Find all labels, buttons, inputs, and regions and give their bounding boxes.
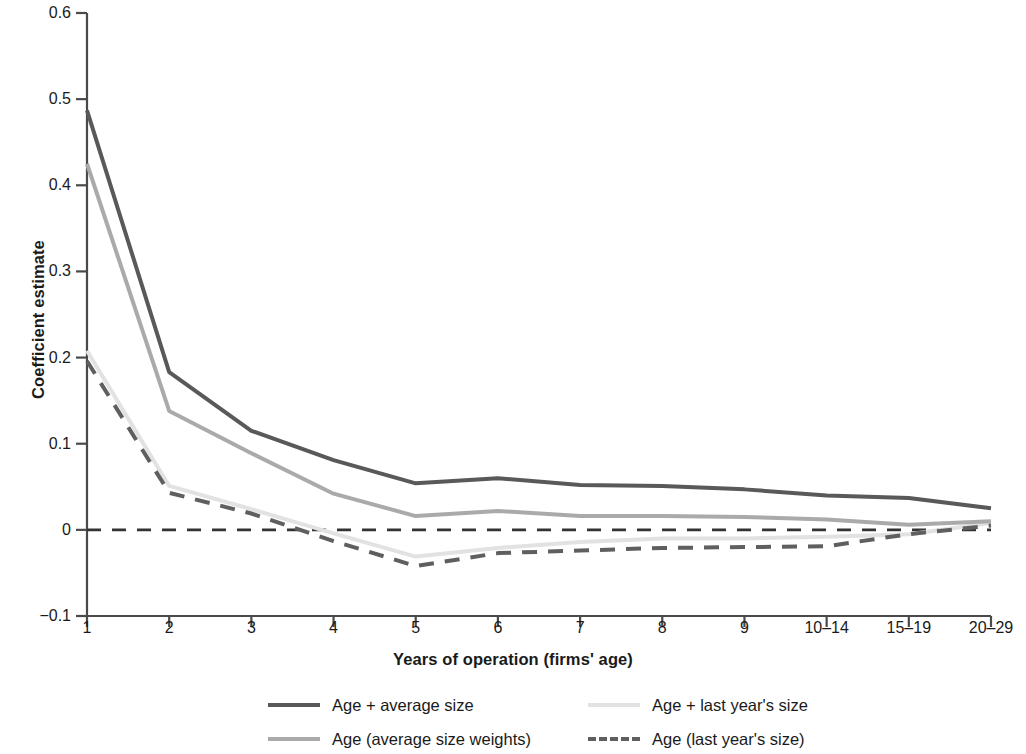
legend-item-age-last-years-size-dashed: Age (last year's size) [588, 726, 805, 752]
legend-swatch-solid-gray [268, 737, 320, 741]
y-tick-label: 0.2 [15, 350, 71, 366]
legend-item-age-last-years-size-solid: Age + last year's size [588, 692, 808, 718]
legend-label: Age + last year's size [652, 696, 808, 715]
legend-item-age-average-size-weights: Age (average size weights) [268, 726, 531, 752]
series-line-0 [87, 110, 991, 508]
x-tick-label: 20–29 [941, 620, 1026, 636]
line-chart-plot [0, 0, 1026, 690]
chart-figure: Coefficient estimate Years of operation … [0, 0, 1026, 754]
y-tick-label: 0.6 [15, 5, 71, 21]
y-tick-label: 0.4 [15, 177, 71, 193]
x-axis-label: Years of operation (firms' age) [0, 650, 1026, 669]
y-tick-label: 0.3 [15, 263, 71, 279]
y-tick-label: 0.5 [15, 91, 71, 107]
series-line-2 [87, 351, 991, 557]
legend-swatch-solid-lightest [588, 703, 640, 707]
y-tick-label: 0 [15, 522, 71, 538]
y-tick-label: 0.1 [15, 436, 71, 452]
legend-item-age-average-size: Age + average size [268, 692, 474, 718]
series-line-1 [87, 164, 991, 525]
y-axis-label: Coefficient estimate [29, 190, 48, 450]
legend-swatch-dashed-dark [588, 737, 640, 741]
legend-label: Age + average size [332, 696, 474, 715]
legend-swatch-solid-dark [268, 703, 320, 707]
legend-label: Age (average size weights) [332, 730, 531, 749]
legend-label: Age (last year's size) [652, 730, 805, 749]
chart-legend: Age + average size Age + last year's siz… [0, 692, 1026, 754]
